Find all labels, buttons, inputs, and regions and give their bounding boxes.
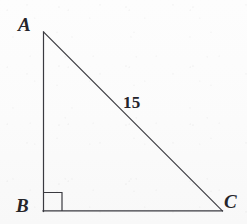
triangle-side-ac-hypotenuse <box>44 32 223 211</box>
vertex-label-b: B <box>16 196 29 215</box>
triangle-drawing <box>0 0 247 224</box>
vertex-label-a: A <box>18 15 31 34</box>
hypotenuse-length-label: 15 <box>123 94 140 111</box>
vertex-label-c: C <box>224 192 237 211</box>
geometry-figure: A B C 15 <box>0 0 247 224</box>
right-angle-mark-icon <box>44 193 63 212</box>
